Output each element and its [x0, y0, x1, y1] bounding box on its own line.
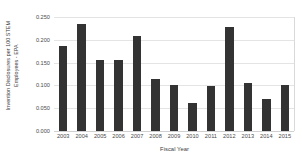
x-axis-tick-label: 2008 [149, 133, 162, 139]
x-axis-tick-label: 2009 [168, 133, 181, 139]
y-axis-title-line-2: Employees - EPA [13, 21, 21, 110]
y-axis-tick-label: 0.000 [36, 128, 50, 134]
x-axis-tick-label: 2004 [75, 133, 88, 139]
bar [59, 46, 67, 131]
bar-chart: Invention Disclosures per 100 STEM Emplo… [0, 0, 302, 162]
x-axis-tick-label: 2011 [205, 133, 217, 139]
x-axis-tick-labels: 2003200420052006200720082009201020112012… [54, 133, 295, 143]
bar [207, 86, 215, 131]
x-axis-title: Fiscal Year [54, 146, 295, 152]
bar [114, 60, 122, 131]
bar [262, 99, 270, 131]
x-axis-tick-label: 2015 [279, 133, 292, 139]
bar [96, 60, 104, 131]
x-axis-tick-label: 2010 [186, 133, 199, 139]
x-axis-tick-label: 2003 [57, 133, 70, 139]
x-axis-tick-label: 2007 [131, 133, 144, 139]
x-axis-tick-label: 2012 [223, 133, 236, 139]
bar [188, 103, 196, 131]
y-axis-tick-label: 0.050 [36, 105, 50, 111]
bar [133, 36, 141, 131]
bar [225, 27, 233, 131]
gridline [54, 131, 294, 132]
x-axis-tick-label: 2006 [112, 133, 125, 139]
y-axis-tick-label: 0.100 [36, 82, 50, 88]
y-axis-tick-labels: 0.0000.0500.1000.1500.2000.250 [26, 14, 52, 132]
y-axis-tick-label: 0.150 [36, 60, 50, 66]
bar [170, 85, 178, 131]
x-axis-tick-label: 2013 [242, 133, 255, 139]
plot-area [54, 17, 295, 131]
y-axis-tick-label: 0.200 [36, 37, 50, 43]
bar [244, 83, 252, 131]
y-axis-title-line-1: Invention Disclosures per 100 STEM [5, 21, 13, 110]
bar [77, 24, 85, 131]
x-axis-tick-label: 2014 [260, 133, 273, 139]
bar [281, 85, 289, 131]
y-axis-title: Invention Disclosures per 100 STEM Emplo… [0, 0, 26, 131]
bars-layer [54, 17, 294, 131]
x-axis-tick-label: 2005 [94, 133, 107, 139]
bar [151, 79, 159, 131]
y-axis-tick-label: 0.250 [36, 14, 50, 20]
